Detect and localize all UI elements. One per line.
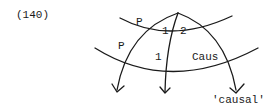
label-1-lower: 1 <box>155 52 162 63</box>
label-p-lower: P <box>118 41 125 52</box>
label-1-upper: 1 <box>162 26 169 37</box>
semantic-field-diagram: (140) P P 1 2 1 Caus 'causal' <box>0 0 277 110</box>
example-number: (140) <box>16 10 49 21</box>
right-arrowhead <box>230 84 244 93</box>
label-caus: Caus <box>192 52 218 63</box>
label-2-upper: 2 <box>180 26 187 37</box>
label-p-upper: P <box>136 17 143 28</box>
label-causal: 'causal' <box>212 95 265 106</box>
